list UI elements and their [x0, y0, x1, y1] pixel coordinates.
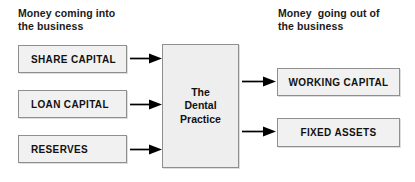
box-fixed-assets-label: FIXED ASSETS [300, 127, 376, 138]
box-working-capital-label: WORKING CAPITAL [288, 77, 388, 88]
money-in-heading: Money coming into the business [18, 7, 115, 33]
box-loan-capital-label: LOAN CAPITAL [31, 99, 109, 110]
box-loan-capital: LOAN CAPITAL [18, 90, 127, 118]
box-reserves-label: RESERVES [31, 144, 88, 155]
arrow-loan-capital-to-practice [130, 99, 162, 110]
money-out-heading: Money going out of the business [278, 7, 380, 33]
arrow-reserves-to-practice [130, 144, 162, 155]
box-share-capital: SHARE CAPITAL [18, 45, 127, 73]
box-share-capital-label: SHARE CAPITAL [31, 54, 116, 65]
arrow-practice-to-working-capital [242, 76, 276, 87]
arrow-practice-to-fixed-assets [242, 126, 276, 137]
box-working-capital: WORKING CAPITAL [277, 68, 400, 96]
arrow-share-capital-to-practice [130, 53, 162, 64]
box-reserves: RESERVES [18, 135, 127, 163]
box-fixed-assets: FIXED ASSETS [277, 118, 400, 147]
box-the-dental-practice: The Dental Practice [162, 44, 239, 168]
box-the-dental-practice-label: The Dental Practice [180, 86, 221, 127]
dental-practice-flow-diagram: Money coming into the business Money goi… [0, 0, 415, 182]
